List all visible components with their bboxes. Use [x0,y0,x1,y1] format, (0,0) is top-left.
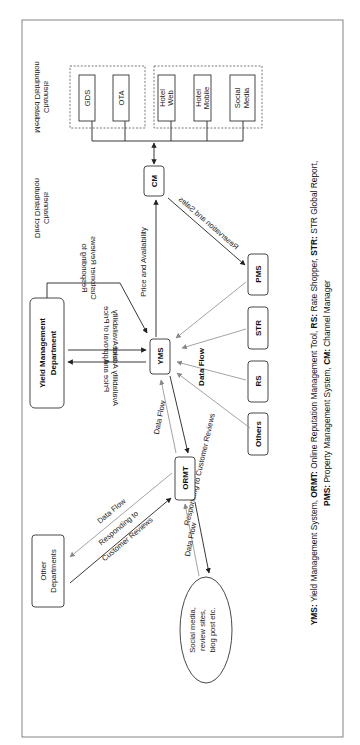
svg-text:YMS: YMS [156,347,165,365]
mediated-label-1: Mediated Distribution [33,61,42,132]
svg-text:blog post etc.: blog post etc. [208,607,217,652]
svg-text:Price and Availability: Price and Availability [139,227,148,297]
mediated-distribution-group: GDS OTA Mediated Distribution Channels [33,61,145,132]
svg-text:Social media,: Social media, [188,607,197,653]
svg-text:Media: Media [242,87,251,108]
svg-text:Data Flow: Data Flow [152,399,167,435]
data-flow-edges [176,282,250,428]
caption-line-1: YMS: Yield Management System, ORMT: Onli… [309,161,319,625]
direct-distribution-group: Hotel Web Hotel Mobile Social Media Dire… [33,66,262,238]
svg-text:STR: STR [254,320,263,336]
svg-text:Data Flow: Data Flow [183,521,198,557]
svg-text:Web: Web [166,90,175,105]
svg-text:Data Flow: Data Flow [197,347,206,386]
svg-text:review sites,: review sites, [198,609,207,651]
svg-text:PMS: PMS [254,265,263,283]
channel-bus [92,121,243,164]
svg-text:Price and: Price and [102,360,111,392]
svg-text:Customer Reviews: Customer Reviews [89,236,98,300]
svg-text:Other: Other [39,561,48,580]
svg-text:Reservation and Sales: Reservation and Sales [177,195,241,252]
svg-text:GDS: GDS [83,90,92,106]
svg-text:RS: RS [254,375,263,387]
caption-line-2: PMS: Property Management System, CM: Cha… [322,280,332,506]
svg-text:Availability Advice: Availability Advice [111,346,120,406]
svg-text:CM: CM [150,174,159,187]
svg-text:Social: Social [233,87,242,108]
svg-text:OTA: OTA [117,90,126,106]
mediated-label-2: Channels [42,81,51,113]
svg-text:Responding to: Responding to [80,244,89,293]
svg-text:Others: Others [254,421,263,447]
svg-text:Department: Department [49,330,58,375]
edge-reservation-sales [168,198,245,265]
node-yield-management-department [30,298,64,408]
svg-text:ORMT: ORMT [181,466,190,490]
yield-management-diagram: GDS OTA Mediated Distribution Channels H… [0,0,360,745]
direct-label-1: Direct Distribution [33,178,42,238]
direct-label-2: Channels [42,192,51,224]
svg-text:Yield Management: Yield Management [38,318,47,388]
node-other-departments [32,535,64,607]
svg-text:Approval of Price: Approval of Price [102,306,111,364]
svg-text:Departments: Departments [49,549,58,593]
svg-text:Mobile: Mobile [202,87,211,109]
